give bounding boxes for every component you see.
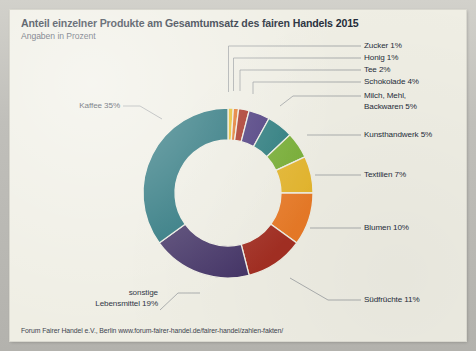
callout-label-suedfruechte: Südfrüchte 11%: [364, 295, 420, 306]
callout-label-textilien: Textilien 7%: [364, 170, 406, 181]
callout-label-sonstige-line1: sonstige: [129, 288, 158, 297]
leader-line-tee: [240, 70, 361, 91]
callout-label-milch: Milch, Mehl, Backwaren 5%: [364, 91, 417, 112]
callout-label-blumen: Blumen 10%: [364, 223, 409, 234]
callout-label-milch-line1: Milch, Mehl,: [364, 91, 406, 100]
callout-label-sonstige-line2: Lebensmittel 19%: [95, 299, 158, 308]
callout-label-kunsthandwerk: Kunsthandwerk 5%: [364, 130, 432, 141]
source-note: Forum Fairer Handel e.V., Berlin www.for…: [21, 327, 283, 334]
callout-label-tee: Tee 2%: [364, 65, 390, 76]
page-background: Anteil einzelner Produkte am Gesamtumsat…: [0, 0, 476, 351]
callout-label-sonstige: sonstige Lebensmittel 19%: [12, 288, 158, 309]
leader-line-sonstige: [160, 293, 200, 310]
donut-chart: Zucker 1%Honig 1%Tee 2%Schokolade 4%Milc…: [10, 10, 466, 341]
callout-label-kaffee: Kaffee 35%: [32, 101, 120, 112]
leader-line-schokolade: [253, 82, 361, 94]
leader-line-honig: [234, 58, 362, 91]
callout-label-honig: Honig 1%: [364, 53, 398, 64]
leader-line-milch: [280, 96, 361, 106]
leader-line-kaffee: [123, 106, 162, 119]
callout-label-schokolade: Schokolade 4%: [364, 77, 419, 88]
leader-line-suedfruechte: [290, 278, 361, 300]
leader-line-zucker: [229, 46, 362, 92]
callout-label-milch-line2: Backwaren 5%: [364, 102, 417, 111]
callout-label-zucker: Zucker 1%: [364, 41, 402, 52]
infographic-card: Anteil einzelner Produkte am Gesamtumsat…: [10, 10, 466, 341]
